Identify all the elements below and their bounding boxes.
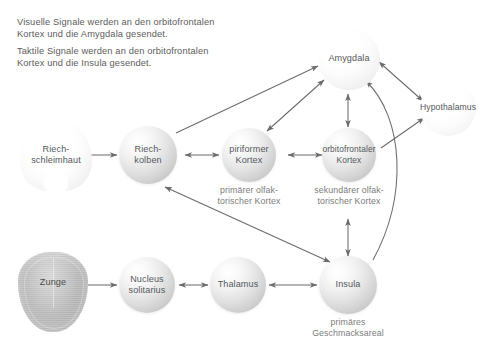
- node-nucleus-solitarius-label: Nucleus solitarius: [129, 274, 166, 296]
- node-amygdala-label: Amygdala: [328, 53, 369, 64]
- intro-paragraph-tactile: Taktile Signale werden an den orbitofron…: [17, 45, 208, 70]
- node-thalamus-label: Thalamus: [218, 279, 259, 290]
- node-riechschleimhaut[interactable]: Riech- schleimhaut: [20, 119, 92, 191]
- caption-insula: primäres Geschmacksareal: [298, 317, 398, 339]
- node-zunge[interactable]: Zunge: [18, 252, 88, 314]
- intro-paragraph-visual: Visuelle Signale werden an den orbitofro…: [17, 16, 215, 41]
- edge-amygdala-hypothalamus: [379, 62, 423, 101]
- node-riechkolben-label: Riech- kolben: [134, 144, 161, 166]
- edge-riechkolben-amygdala: [176, 66, 318, 133]
- node-amygdala[interactable]: Amygdala: [318, 28, 380, 90]
- node-riechschleimhaut-label: Riech- schleimhaut: [31, 144, 81, 166]
- node-zunge-label: Zunge: [40, 277, 66, 288]
- node-insula[interactable]: Insula: [319, 256, 377, 314]
- node-orbitofrontaler-kortex[interactable]: orbitofrontaler Kortex: [322, 128, 376, 182]
- edge-orbitofrontaler-hypothalamus: [381, 118, 424, 148]
- node-nucleus-solitarius[interactable]: Nucleus solitarius: [119, 257, 175, 313]
- node-orbitofrontaler-kortex-label: orbitofrontaler Kortex: [322, 144, 375, 166]
- edge-piriformer-amygdala: [267, 80, 324, 131]
- node-riechkolben[interactable]: Riech- kolben: [119, 126, 177, 184]
- node-piriformer-kortex[interactable]: piriformer Kortex: [222, 128, 276, 182]
- node-piriformer-kortex-label: piriformer Kortex: [229, 144, 268, 166]
- caption-orbitofrontaler-kortex: sekundärer olfak- torischer Kortex: [299, 185, 399, 207]
- diagram-canvas: Visuelle Signale werden an den orbitofro…: [0, 0, 498, 352]
- node-hypothalamus[interactable]: Hypothalamus: [420, 80, 476, 136]
- node-thalamus[interactable]: Thalamus: [210, 257, 266, 313]
- node-hypothalamus-label: Hypothalamus: [420, 102, 476, 113]
- node-insula-label: Insula: [336, 279, 361, 290]
- caption-piriformer-kortex: primärer olfak- torischer Kortex: [199, 185, 299, 207]
